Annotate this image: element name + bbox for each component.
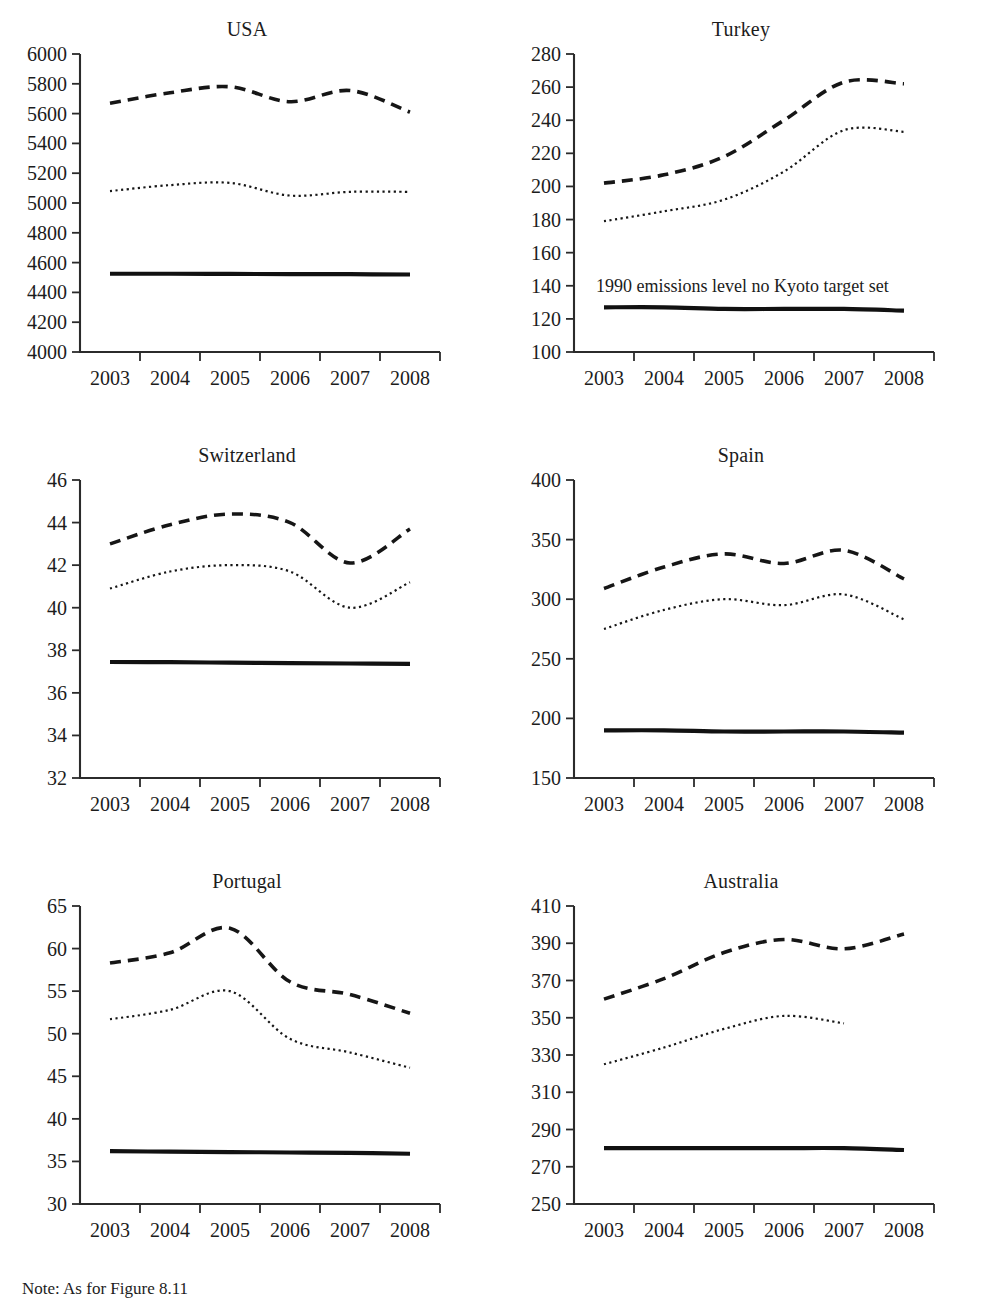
y-axis-tick-label: 330 (531, 1044, 561, 1066)
chart-canvas-portugal: 3035404550556065200320042005200620072008 (0, 866, 494, 1266)
y-axis-tick-label: 35 (47, 1150, 67, 1172)
x-axis-tick-label: 2008 (390, 367, 430, 389)
y-axis-tick-label: 38 (47, 639, 67, 661)
x-axis-tick-label: 2003 (90, 793, 130, 815)
x-axis-tick-label: 2006 (270, 793, 310, 815)
chart-panel-turkey: Turkey 100120140160180200220240260280200… (494, 14, 988, 434)
y-axis-tick-label: 150 (531, 767, 561, 789)
x-axis-tick-label: 2007 (330, 793, 370, 815)
line-chart-portugal: 3035404550556065200320042005200620072008 (0, 866, 494, 1266)
series-line-dashed (604, 80, 904, 183)
x-axis-tick-label: 2005 (210, 367, 250, 389)
y-axis-tick-label: 5400 (27, 132, 67, 154)
chart-panel-switzerland: Switzerland 3234363840424446200320042005… (0, 440, 494, 860)
y-axis-tick-label: 100 (531, 341, 561, 363)
chart-panel-australia: Australia 250270290310330350370390410200… (494, 866, 988, 1286)
y-axis-tick-label: 45 (47, 1065, 67, 1087)
y-axis-tick-label: 220 (531, 142, 561, 164)
y-axis-tick-label: 60 (47, 938, 67, 960)
y-axis-tick-label: 55 (47, 980, 67, 1002)
y-axis-tick-label: 300 (531, 588, 561, 610)
y-axis-tick-label: 120 (531, 308, 561, 330)
x-axis-tick-label: 2005 (704, 1219, 744, 1241)
y-axis-tick-label: 370 (531, 970, 561, 992)
series-line-dashed (110, 514, 410, 563)
series-line-dotted (110, 565, 410, 608)
x-axis-tick-label: 2006 (270, 367, 310, 389)
y-axis-tick-label: 32 (47, 767, 67, 789)
x-axis-tick-label: 2007 (330, 1219, 370, 1241)
y-axis-tick-label: 350 (531, 1007, 561, 1029)
y-axis-tick-label: 30 (47, 1193, 67, 1215)
line-chart-usa: 4000420044004600480050005200540056005800… (0, 14, 494, 414)
chart-canvas-spain: 1502002503003504002003200420052006200720… (494, 440, 988, 840)
x-axis-tick-label: 2004 (644, 367, 684, 389)
y-axis-tick-label: 4400 (27, 281, 67, 303)
y-axis-tick-label: 260 (531, 76, 561, 98)
x-axis-tick-label: 2008 (884, 1219, 924, 1241)
x-axis-tick-label: 2003 (90, 1219, 130, 1241)
y-axis-tick-label: 5800 (27, 73, 67, 95)
y-axis-tick-label: 4600 (27, 252, 67, 274)
figure-note: Note: As for Figure 8.11 (22, 1279, 188, 1299)
y-axis-tick-label: 40 (47, 597, 67, 619)
x-axis-tick-label: 2003 (584, 793, 624, 815)
series-line-dashed (110, 927, 410, 1013)
y-axis-tick-label: 270 (531, 1156, 561, 1178)
line-chart-australia: 2502702903103303503703904102003200420052… (494, 866, 988, 1266)
series-line-solid (110, 274, 410, 275)
y-axis-tick-label: 250 (531, 1193, 561, 1215)
y-axis-tick-label: 350 (531, 529, 561, 551)
x-axis-tick-label: 2008 (884, 367, 924, 389)
chart-panel-spain: Spain 1502002503003504002003200420052006… (494, 440, 988, 860)
y-axis-tick-label: 65 (47, 895, 67, 917)
x-axis-tick-label: 2005 (704, 367, 744, 389)
y-axis-tick-label: 6000 (27, 43, 67, 65)
line-chart-switzerland: 3234363840424446200320042005200620072008 (0, 440, 494, 840)
y-axis-tick-label: 200 (531, 175, 561, 197)
x-axis-tick-label: 2004 (150, 793, 190, 815)
y-axis-tick-label: 250 (531, 648, 561, 670)
line-chart-spain: 1502002503003504002003200420052006200720… (494, 440, 988, 840)
y-axis-tick-label: 400 (531, 469, 561, 491)
x-axis-tick-label: 2004 (150, 1219, 190, 1241)
x-axis-tick-label: 2004 (644, 793, 684, 815)
x-axis-tick-label: 2006 (764, 793, 804, 815)
y-axis-tick-label: 42 (47, 554, 67, 576)
x-axis-tick-label: 2006 (764, 367, 804, 389)
x-axis-tick-label: 2008 (884, 793, 924, 815)
x-axis-tick-label: 2008 (390, 1219, 430, 1241)
x-axis-tick-label: 2003 (90, 367, 130, 389)
chart-canvas-australia: 2502702903103303503703904102003200420052… (494, 866, 988, 1266)
y-axis-tick-label: 310 (531, 1081, 561, 1103)
plot-annotation: 1990 emissions level no Kyoto target set (596, 276, 889, 296)
y-axis-tick-label: 34 (47, 724, 67, 746)
series-line-dotted (604, 1016, 844, 1065)
chart-panel-usa: USA 400042004400460048005000520054005600… (0, 14, 494, 434)
x-axis-tick-label: 2004 (150, 367, 190, 389)
y-axis-tick-label: 36 (47, 682, 67, 704)
x-axis-tick-label: 2007 (330, 367, 370, 389)
figure-grid: USA 400042004400460048005000520054005600… (0, 0, 988, 1301)
x-axis-tick-label: 2005 (210, 1219, 250, 1241)
y-axis-tick-label: 5200 (27, 162, 67, 184)
y-axis-tick-label: 5000 (27, 192, 67, 214)
chart-canvas-turkey: 1001201401601802002202402602802003200420… (494, 14, 988, 414)
x-axis-tick-label: 2008 (390, 793, 430, 815)
chart-canvas-switzerland: 3234363840424446200320042005200620072008 (0, 440, 494, 840)
x-axis-tick-label: 2007 (824, 793, 864, 815)
y-axis-tick-label: 160 (531, 242, 561, 264)
y-axis-tick-label: 200 (531, 707, 561, 729)
y-axis-tick-label: 240 (531, 109, 561, 131)
series-line-solid (110, 662, 410, 664)
series-line-solid (604, 1148, 904, 1150)
x-axis-tick-label: 2007 (824, 367, 864, 389)
series-line-dotted (604, 594, 904, 629)
series-line-solid (604, 307, 904, 310)
series-line-dotted (604, 128, 904, 222)
series-line-solid (604, 730, 904, 732)
y-axis-tick-label: 140 (531, 275, 561, 297)
y-axis-tick-label: 410 (531, 895, 561, 917)
x-axis-tick-label: 2006 (270, 1219, 310, 1241)
chart-panel-portugal: Portugal 3035404550556065200320042005200… (0, 866, 494, 1286)
